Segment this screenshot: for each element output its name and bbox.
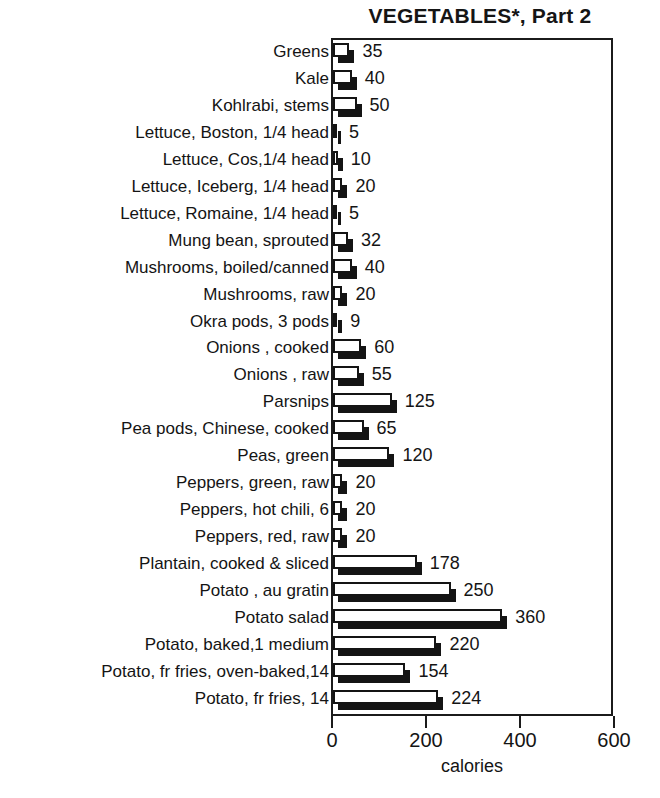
category-label: Potato salad: [0, 608, 329, 627]
bar-face: [333, 205, 337, 219]
bar-row: Onions , cooked60: [333, 336, 658, 364]
bar-row: Lettuce, Iceberg, 1/4 head20: [333, 175, 658, 203]
bar: [333, 501, 348, 522]
bar: [333, 690, 444, 711]
bar: [333, 420, 370, 441]
bar-row: Potato salad360: [333, 606, 658, 634]
x-axis-tick-label: 200: [391, 729, 461, 751]
x-axis-tick-mark: [519, 716, 521, 728]
bar-face: [333, 690, 438, 704]
vegetables-calories-bar-chart: VEGETABLES*, Part 2 Greens35Kale40Kohlra…: [0, 0, 660, 798]
bar-value-label: 154: [418, 661, 448, 681]
x-axis-tick-label: 0: [297, 729, 367, 751]
bar: [333, 124, 342, 145]
bar-rows-container: Greens35Kale40Kohlrabi, stems50Lettuce, …: [333, 40, 658, 714]
bar: [333, 582, 457, 603]
bar-face: [333, 97, 357, 111]
bar-row: Kale40: [333, 67, 658, 95]
bar-row: Mushrooms, boiled/canned40: [333, 256, 658, 284]
bar-row: Peppers, green, raw20: [333, 471, 658, 499]
category-label: Potato , au gratin: [0, 581, 329, 600]
bar-value-label: 250: [464, 580, 494, 600]
bar: [333, 663, 411, 684]
bar: [333, 43, 355, 64]
category-label: Mushrooms, raw: [0, 285, 329, 304]
bar-row: Lettuce, Romaine, 1/4 head5: [333, 202, 658, 230]
bar: [333, 70, 358, 91]
x-axis-tick-mark: [613, 716, 615, 728]
category-label: Lettuce, Romaine, 1/4 head: [0, 204, 329, 223]
bar: [333, 447, 395, 468]
bar-face: [333, 43, 349, 57]
bar-row: Potato , au gratin250: [333, 579, 658, 607]
bar-row: Kohlrabi, stems50: [333, 94, 658, 122]
bar-face: [333, 501, 342, 515]
chart-title: VEGETABLES*, Part 2: [330, 4, 630, 28]
bar-value-label: 32: [361, 230, 381, 250]
bar-row: Okra pods, 3 pods9: [333, 310, 658, 338]
bar: [333, 636, 442, 657]
bar-face: [333, 609, 502, 623]
bar-face: [333, 151, 338, 165]
bar: [333, 151, 344, 172]
bar-face: [333, 447, 389, 461]
category-label: Lettuce, Boston, 1/4 head: [0, 123, 329, 142]
bar: [333, 339, 367, 360]
bar-value-label: 178: [430, 553, 460, 573]
bar: [333, 286, 348, 307]
category-label: Onions , cooked: [0, 338, 329, 357]
bar-shadow: [338, 212, 341, 225]
x-axis-tick-mark: [425, 716, 427, 728]
category-label: Lettuce, Cos,1/4 head: [0, 150, 329, 169]
bar-face: [333, 582, 451, 596]
category-label: Potato, baked,1 medium: [0, 635, 329, 654]
bar-face: [333, 124, 337, 138]
category-label: Kohlrabi, stems: [0, 96, 329, 115]
category-label: Onions , raw: [0, 365, 329, 384]
category-label: Plantain, cooked & sliced: [0, 554, 329, 573]
bar-row: Mung bean, sprouted32: [333, 229, 658, 257]
bar-face: [333, 420, 364, 434]
bar-value-label: 20: [355, 526, 375, 546]
bar-face: [333, 474, 342, 488]
bar-row: Potato, baked,1 medium220: [333, 633, 658, 661]
bar-value-label: 20: [355, 472, 375, 492]
bar-face: [333, 636, 436, 650]
bar-value-label: 120: [402, 445, 432, 465]
bar: [333, 474, 348, 495]
bar: [333, 528, 348, 549]
bar-value-label: 9: [350, 311, 360, 331]
bar: [333, 259, 358, 280]
category-label: Mushrooms, boiled/canned: [0, 258, 329, 277]
bar-value-label: 40: [365, 68, 385, 88]
bar-row: Parsnips125: [333, 390, 658, 418]
bar-row: Pea pods, Chinese, cooked65: [333, 417, 658, 445]
bar-row: Lettuce, Cos,1/4 head10: [333, 148, 658, 176]
bar-value-label: 10: [351, 149, 371, 169]
bar-value-label: 360: [515, 607, 545, 627]
category-label: Peppers, red, raw: [0, 527, 329, 546]
category-label: Potato, fr fries, 14: [0, 689, 329, 708]
bar-shadow: [338, 131, 341, 144]
bar-face: [333, 366, 359, 380]
bar: [333, 313, 343, 334]
bar-row: Peas, green120: [333, 444, 658, 472]
bar-shadow: [338, 320, 342, 333]
bar: [333, 178, 348, 199]
bar: [333, 97, 363, 118]
bar: [333, 366, 365, 387]
bar-value-label: 60: [374, 337, 394, 357]
bar-face: [333, 259, 352, 273]
x-axis-tick-label: 600: [579, 729, 649, 751]
bar: [333, 232, 354, 253]
bar-value-label: 20: [355, 284, 375, 304]
bar-value-label: 35: [362, 41, 382, 61]
bar-row: Plantain, cooked & sliced178: [333, 552, 658, 580]
bar-value-label: 220: [449, 634, 479, 654]
bar-row: Peppers, hot chili, 620: [333, 498, 658, 526]
bar-row: Potato, fr fries, oven-baked,14154: [333, 660, 658, 688]
bar-value-label: 224: [451, 688, 481, 708]
category-label: Lettuce, Iceberg, 1/4 head: [0, 177, 329, 196]
bar: [333, 205, 342, 226]
bar-value-label: 65: [377, 418, 397, 438]
